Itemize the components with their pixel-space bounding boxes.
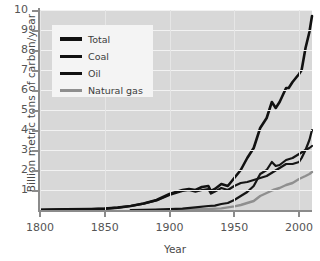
y-tick-mark: [32, 170, 39, 172]
gridline-horizontal: [40, 130, 312, 131]
y-tick-mark: [32, 70, 39, 72]
gridline-vertical: [170, 10, 171, 210]
legend-item-natural-gas: Natural gas: [60, 82, 143, 98]
y-tick-mark: [32, 90, 39, 92]
legend-swatch-coal: [60, 55, 82, 58]
x-tick-label: 1900: [140, 221, 200, 234]
x-tick-label: 1950: [204, 221, 264, 234]
chart-legend: Total Coal Oil Natural gas: [52, 25, 153, 97]
legend-label-natural-gas: Natural gas: [88, 85, 143, 96]
legend-label-oil: Oil: [88, 68, 101, 79]
x-tick-mark: [298, 211, 300, 217]
legend-label-total: Total: [88, 34, 110, 45]
y-tick-label: 6: [0, 83, 28, 96]
x-tick-mark: [39, 211, 41, 217]
y-tick-mark: [32, 50, 39, 52]
y-tick-mark: [32, 130, 39, 132]
legend-swatch-natural-gas: [60, 89, 82, 92]
gridline-vertical: [234, 10, 235, 210]
x-tick-mark: [169, 211, 171, 217]
y-tick-label: 5: [0, 103, 28, 116]
legend-item-coal: Coal: [60, 48, 109, 64]
x-tick-label: 2000: [269, 221, 320, 234]
y-tick-mark: [32, 30, 39, 32]
gridline-horizontal: [40, 110, 312, 111]
legend-swatch-total: [60, 37, 82, 41]
gridline-horizontal: [40, 190, 312, 191]
legend-swatch-oil: [60, 72, 82, 75]
y-tick-label: 7: [0, 63, 28, 76]
gridline-vertical: [40, 10, 41, 210]
y-tick-label: 4: [0, 123, 28, 136]
legend-item-total: Total: [60, 31, 110, 47]
x-tick-label: 1800: [10, 221, 70, 234]
y-tick-label: 1: [0, 183, 28, 196]
y-tick-mark: [32, 10, 39, 12]
legend-label-coal: Coal: [88, 51, 109, 62]
y-tick-mark: [32, 190, 39, 192]
gridline-horizontal: [40, 150, 312, 151]
legend-item-oil: Oil: [60, 65, 101, 81]
chart-figure: Billion metric tons of carbon/year 12345…: [0, 0, 320, 261]
y-tick-label: 10: [0, 3, 28, 16]
x-axis-line: [38, 210, 312, 212]
y-tick-mark: [32, 110, 39, 112]
gridline-vertical: [299, 10, 300, 210]
x-tick-label: 1850: [75, 221, 135, 234]
y-tick-mark: [32, 150, 39, 152]
x-tick-mark: [104, 211, 106, 217]
gridline-horizontal: [40, 10, 312, 11]
y-tick-label: 8: [0, 43, 28, 56]
x-tick-mark: [233, 211, 235, 217]
x-axis-title: Year: [40, 243, 310, 255]
y-tick-label: 2: [0, 163, 28, 176]
y-tick-label: 9: [0, 23, 28, 36]
gridline-horizontal: [40, 170, 312, 171]
y-tick-label: 3: [0, 143, 28, 156]
